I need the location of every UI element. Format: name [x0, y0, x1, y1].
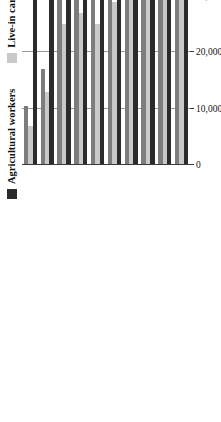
- bar-group: [57, 0, 70, 165]
- bar: [33, 0, 37, 165]
- bar: [41, 69, 45, 165]
- bar: [117, 0, 121, 165]
- bar: [167, 0, 171, 165]
- bar: [184, 0, 188, 165]
- bar: [163, 0, 167, 165]
- bar: [45, 92, 49, 165]
- plot-area: [22, 0, 190, 165]
- bar: [158, 0, 162, 165]
- bar: [150, 0, 154, 165]
- legend-item: Live-in caregivers: [7, 0, 18, 63]
- legend-swatch-icon: [7, 53, 17, 63]
- bar: [74, 0, 78, 165]
- bar-group: [158, 0, 171, 165]
- legend-label: Agricultural workers: [7, 89, 18, 184]
- bar: [146, 0, 150, 165]
- bar: [108, 0, 112, 165]
- bar: [112, 2, 116, 165]
- bar: [129, 0, 133, 165]
- legend-label: Live-in caregivers: [7, 0, 18, 48]
- bar: [57, 0, 61, 165]
- bar: [95, 24, 99, 165]
- bar: [83, 0, 87, 165]
- bar: [100, 0, 104, 165]
- value-tick-label: 0: [196, 161, 201, 171]
- value-axis-line: [22, 164, 190, 165]
- bar-group: [91, 0, 104, 165]
- bar: [133, 0, 137, 165]
- value-tick: [190, 51, 194, 52]
- legend-item: Agricultural workers: [7, 89, 18, 199]
- value-tick-label: 10,000: [196, 105, 221, 115]
- bar-group: [74, 0, 87, 165]
- bar-group: [175, 0, 188, 165]
- value-tick: [190, 164, 194, 165]
- legend-swatch-icon: [7, 189, 17, 199]
- bar-group: [24, 0, 37, 165]
- bar: [49, 0, 53, 165]
- bar: [66, 0, 70, 165]
- chart-legend: Agricultural workersLive-in caregiversLo…: [4, 0, 20, 199]
- value-tick: [190, 108, 194, 109]
- bar: [24, 106, 28, 165]
- value-tick-label: 30,000: [196, 0, 221, 2]
- bar: [91, 0, 95, 165]
- bar-group: [125, 0, 138, 165]
- bar: [175, 0, 179, 165]
- bar-group: [108, 0, 121, 165]
- bar-group: [141, 0, 154, 165]
- bar-group: [41, 0, 54, 165]
- bar: [79, 13, 83, 165]
- bar: [62, 24, 66, 165]
- chart-figure: Agricultural workersLive-in caregiversLo…: [0, 0, 221, 422]
- bar: [179, 0, 183, 165]
- value-tick-label: 20,000: [196, 48, 221, 58]
- bar: [141, 0, 145, 165]
- bar: [28, 126, 32, 165]
- chart-stage: Agricultural workersLive-in caregiversLo…: [0, 0, 221, 221]
- bar: [125, 0, 129, 165]
